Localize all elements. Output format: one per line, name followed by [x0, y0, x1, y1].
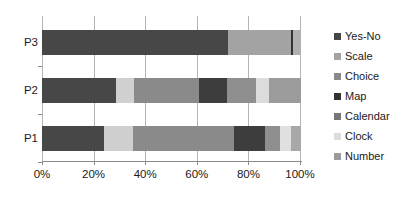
x-axis-label-20: 20%: [71, 167, 117, 181]
legend-swatch-icon-calendar: [334, 113, 341, 120]
x-axis-label-80: 80%: [225, 167, 271, 181]
legend-label-choice: Choice: [345, 70, 379, 82]
bar-segment-p2-choice: [134, 78, 199, 103]
x-axis-label-40: 40%: [122, 167, 168, 181]
bar-p2: [42, 78, 301, 103]
x-axis-tick-0: [42, 161, 43, 165]
y-axis-label-p1: P1: [4, 132, 38, 144]
y-axis-tick: [38, 114, 42, 115]
legend-item-scale[interactable]: Scale: [334, 46, 410, 66]
legend-swatch-icon-choice: [334, 73, 341, 80]
bar-segment-p1-choice: [133, 126, 234, 151]
bar-segment-p2-number: [269, 78, 301, 103]
legend-swatch-icon-scale: [334, 53, 341, 60]
legend-label-scale: Scale: [345, 50, 373, 62]
bar-segment-p1-yes-no: [42, 126, 104, 151]
bar-segment-p1-clock: [280, 126, 290, 151]
legend-item-yes-no[interactable]: Yes-No: [334, 26, 410, 46]
x-axis-tick-20: [94, 161, 95, 165]
legend-swatch-icon-number: [334, 153, 341, 160]
y-axis-label-p3: P3: [4, 36, 38, 48]
legend-label-calendar: Calendar: [345, 110, 390, 122]
legend-label-number: Number: [345, 150, 384, 162]
bar-segment-p1-number: [291, 126, 301, 151]
bar-segment-p2-map: [199, 78, 227, 103]
bar-segment-p3-number: [293, 30, 301, 55]
stacked-bar-chart: P3P2P1 0%20%40%60%80%100% Yes-NoScaleCho…: [0, 0, 410, 199]
legend-item-number[interactable]: Number: [334, 146, 410, 166]
legend-item-clock[interactable]: Clock: [334, 126, 410, 146]
chart-legend: Yes-NoScaleChoiceMapCalendarClockNumber: [334, 26, 410, 166]
y-axis-label-p2: P2: [4, 84, 38, 96]
legend-item-choice[interactable]: Choice: [334, 66, 410, 86]
bar-segment-p3-scale: [228, 30, 290, 55]
x-axis-tick-100: [300, 161, 301, 165]
bar-segment-p2-clock: [256, 78, 269, 103]
bar-segment-p2-yes-no: [42, 78, 116, 103]
legend-label-yes-no: Yes-No: [345, 30, 381, 42]
y-axis-labels: P3P2P1: [0, 16, 38, 161]
x-axis-tick-60: [197, 161, 198, 165]
bar-segment-p1-clock: [104, 126, 132, 151]
legend-label-map: Map: [345, 90, 366, 102]
legend-swatch-icon-yes-no: [334, 33, 341, 40]
x-axis-label-60: 60%: [174, 167, 220, 181]
legend-item-calendar[interactable]: Calendar: [334, 106, 410, 126]
y-axis-tick: [38, 162, 42, 163]
x-axis-tick-40: [145, 161, 146, 165]
x-axis-line: [42, 161, 302, 162]
legend-swatch-icon-clock: [334, 133, 341, 140]
x-axis-tick-labels: 0%20%40%60%80%100%: [0, 167, 330, 183]
plot-area: [42, 16, 301, 161]
bar-segment-p2-clock: [116, 78, 134, 103]
legend-label-clock: Clock: [345, 130, 373, 142]
bar-segment-p1-map: [234, 126, 265, 151]
bar-segment-p1-calendar: [265, 126, 281, 151]
x-axis-label-100: 100%: [277, 167, 323, 181]
bar-p1: [42, 126, 301, 151]
legend-item-map[interactable]: Map: [334, 86, 410, 106]
bar-segment-p3-yes-no: [42, 30, 228, 55]
x-axis-label-0: 0%: [19, 167, 65, 181]
y-axis-tick: [38, 66, 42, 67]
legend-swatch-icon-map: [334, 93, 341, 100]
bar-p3: [42, 30, 301, 55]
x-axis-tick-80: [248, 161, 249, 165]
bar-segment-p2-calendar: [227, 78, 255, 103]
